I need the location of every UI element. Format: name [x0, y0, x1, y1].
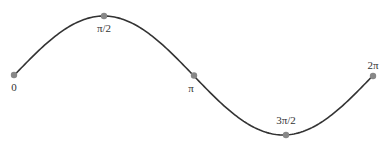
- point-label: π: [188, 82, 194, 94]
- point-label: π/2: [97, 22, 111, 34]
- point-marker: [370, 73, 376, 79]
- point-label: 0: [11, 81, 17, 93]
- point-label: 3π/2: [276, 114, 296, 126]
- point-marker: [101, 13, 107, 19]
- point-marker: [191, 72, 197, 78]
- sine-diagram: 0π/2π3π/22π: [0, 0, 387, 150]
- point-marker: [11, 72, 17, 78]
- point-marker: [283, 132, 289, 138]
- point-label: 2π: [367, 59, 379, 71]
